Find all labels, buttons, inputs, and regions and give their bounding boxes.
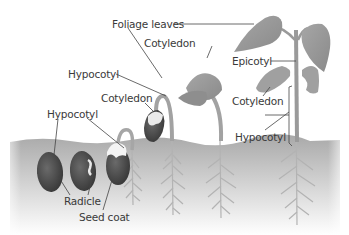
label-cotyledon-top: Cotyledon <box>144 38 195 49</box>
label-foliage-leaves: Foliage leaves <box>112 19 184 30</box>
label-cotyledon-mid: Cotyledon <box>101 93 152 104</box>
label-epicotyl: Epicotyl <box>232 56 272 67</box>
label-radicle: Radicle <box>64 196 101 207</box>
label-hypocotyl-left: Hypocotyl <box>47 109 98 120</box>
label-hypocotyl-right: Hypocotyl <box>235 132 286 143</box>
label-hypocotyl-mid: Hypocotyl <box>68 69 119 80</box>
label-seed-coat: Seed coat <box>79 212 130 223</box>
label-cotyledon-right: Cotyledon <box>232 96 283 107</box>
